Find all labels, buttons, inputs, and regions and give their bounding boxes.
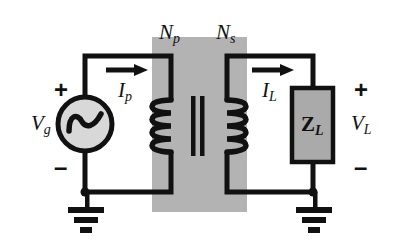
- primary-current-label: Ip: [118, 80, 132, 104]
- schematic-canvas: [0, 0, 394, 247]
- load-voltage-label: VL: [351, 113, 372, 137]
- load-current-label: IL: [262, 80, 277, 104]
- source-minus-sign: –: [54, 155, 67, 179]
- load-current-arrow: [252, 64, 294, 76]
- load-minus-sign: –: [354, 155, 367, 179]
- source-voltage-label: Vg: [31, 113, 51, 137]
- load-impedance-label: ZL: [301, 114, 324, 138]
- load-plus-sign: +: [354, 78, 368, 102]
- source-plus-sign: +: [54, 78, 68, 102]
- primary-turns-label: Np: [159, 22, 180, 46]
- secondary-turns-label: Ns: [216, 22, 235, 46]
- primary-current-arrow: [106, 64, 148, 76]
- circuit-diagram-figure: Np Ns Ip IL Vg ZL VL + – + –: [0, 0, 394, 247]
